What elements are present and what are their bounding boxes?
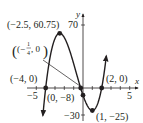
fraction-den: 4 [27, 50, 30, 56]
svg-text:(−: (− [17, 44, 25, 54]
x-axis-label: x [134, 76, 139, 86]
label-max-point: (−2.5, 60.75) [7, 19, 59, 31]
label-y-intercept: (0, −8) [47, 92, 74, 104]
tick-label-neg5: −5 [27, 90, 38, 101]
label-root-right: (2, 0) [106, 73, 128, 85]
point-max [57, 31, 62, 36]
label-root-mid: ( (− 1 4 , 0 ) [12, 41, 48, 60]
function-curve [43, 33, 106, 115]
point-root-right [99, 86, 104, 91]
cubic-function-graph: (−2.5, 60.75) 70 y ( (− 1 4 , 0 ) (−4, 0… [0, 0, 143, 123]
point-y-intercept [81, 93, 86, 98]
svg-text:, 0: , 0 [31, 44, 41, 54]
tick-label-neg30: −30 [64, 110, 80, 121]
point-min [90, 108, 95, 113]
y-axis-label: y [75, 9, 80, 19]
label-root-left: (−4, 0) [10, 73, 37, 85]
label-min-point: (1, −25) [96, 111, 128, 123]
point-root-mid [78, 86, 83, 91]
fraction-num: 1 [27, 41, 30, 47]
tick-label-5: 5 [127, 90, 132, 101]
svg-text:): ) [43, 43, 48, 60]
point-root-left [43, 86, 48, 91]
tick-label-70: 70 [68, 19, 78, 30]
